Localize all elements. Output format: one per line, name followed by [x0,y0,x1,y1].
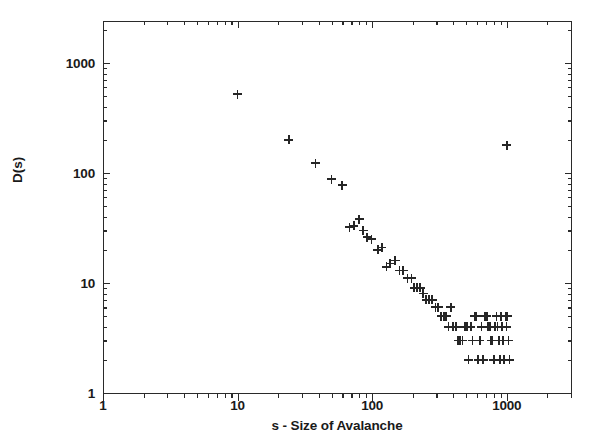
y-tick [103,178,107,179]
y-tick-label: 10 [80,275,95,290]
y-tick [103,197,107,198]
y-tick [103,107,107,108]
y-tick [568,230,572,231]
y-tick [568,340,572,341]
x-tick [494,21,495,25]
x-tick [359,394,360,398]
y-tick [103,340,107,341]
x-tick [436,21,437,25]
y-tick [565,393,572,394]
x-tick-label: 100 [361,398,383,413]
y-tick [568,288,572,289]
x-tick [302,21,303,25]
y-tick-label: 1000 [66,55,95,70]
y-tick [568,96,572,97]
y-tick [103,217,107,218]
x-tick [197,394,198,398]
x-axis-title: s - Size of Avalanche [103,418,571,433]
x-tick [366,21,367,25]
y-tick [103,230,107,231]
chart-figure: 11010010001101001000 s - Size of Avalanc… [0,0,606,448]
x-tick [103,21,104,28]
x-tick [453,394,454,398]
x-tick [144,21,145,25]
y-tick [568,178,572,179]
y-tick [568,316,572,317]
y-tick [103,300,107,301]
x-tick [413,394,414,398]
right-axis-line [571,21,572,394]
x-tick [547,394,548,398]
y-tick [568,30,572,31]
x-tick [302,394,303,398]
x-tick [453,21,454,25]
y-tick [103,30,107,31]
y-tick [103,87,107,88]
y-tick [568,184,572,185]
x-tick [208,21,209,25]
y-tick [103,173,110,174]
y-tick [568,217,572,218]
x-tick-label: 10 [230,398,245,413]
x-tick [208,394,209,398]
x-tick [413,21,414,25]
x-tick [477,394,478,398]
y-tick [565,63,572,64]
x-tick-label: 1000 [492,398,521,413]
plot-area [103,21,571,394]
y-tick [103,294,107,295]
x-tick [486,21,487,25]
y-tick [568,327,572,328]
x-tick [167,21,168,25]
x-tick [372,21,373,28]
y-tick [103,68,107,69]
y-tick [568,140,572,141]
x-tick [351,21,352,25]
y-tick [568,74,572,75]
x-tick [225,21,226,25]
x-tick [486,394,487,398]
y-tick [103,96,107,97]
y-tick [103,393,110,394]
x-tick-label: 1 [99,398,106,413]
x-tick [217,394,218,398]
y-tick [103,120,107,121]
y-tick [568,80,572,81]
y-tick [568,107,572,108]
x-tick [436,394,437,398]
x-tick [501,21,502,25]
x-tick [278,394,279,398]
x-tick [359,21,360,25]
x-tick [319,394,320,398]
x-tick [238,21,239,28]
y-tick [103,206,107,207]
x-tick [332,394,333,398]
x-tick [231,21,232,25]
y-tick [103,190,107,191]
x-tick [466,21,467,25]
y-tick [103,74,107,75]
x-tick [225,394,226,398]
y-axis-title: D(s) [10,157,25,183]
y-tick [103,327,107,328]
y-tick [568,307,572,308]
x-tick [332,21,333,25]
y-tick [103,283,110,284]
x-tick [167,394,168,398]
x-tick [571,21,572,25]
y-tick [103,250,107,251]
y-tick [568,190,572,191]
x-tick [466,394,467,398]
x-tick [571,394,572,398]
y-tick-label: 100 [73,165,95,180]
y-tick [568,206,572,207]
y-tick [568,197,572,198]
x-tick [342,21,343,25]
x-tick [351,394,352,398]
y-tick [568,120,572,121]
y-tick [565,173,572,174]
y-tick [568,294,572,295]
x-tick [278,21,279,25]
y-tick [103,63,110,64]
y-tick [103,140,107,141]
